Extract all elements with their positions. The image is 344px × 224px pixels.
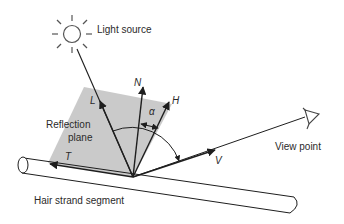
vector-T-label: T bbox=[65, 151, 72, 162]
sun-icon bbox=[52, 15, 92, 53]
vector-H-label: H bbox=[172, 95, 180, 106]
vector-N-label: N bbox=[134, 77, 142, 88]
vector-L-label: L bbox=[90, 95, 96, 106]
eye-icon bbox=[303, 108, 319, 129]
vector-V-label: V bbox=[215, 155, 223, 166]
vector-V bbox=[133, 150, 215, 177]
alpha-label: α bbox=[149, 106, 155, 117]
reflection-plane-label-2: plane bbox=[68, 132, 93, 143]
light-source-label: Light source bbox=[97, 24, 152, 35]
view-point-label: View point bbox=[275, 141, 321, 152]
reflection-plane-label-1: Reflection bbox=[46, 119, 90, 130]
hair-reflection-diagram: Light source Reflection plane View point… bbox=[0, 0, 344, 224]
hair-strand-label: Hair strand segment bbox=[34, 195, 124, 206]
